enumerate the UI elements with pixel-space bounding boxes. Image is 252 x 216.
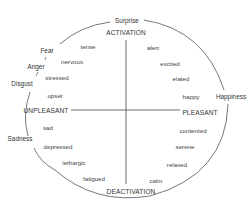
emotion-sadness: Sadness	[8, 135, 33, 142]
axis-label-pleasant: PLEASANT	[182, 109, 217, 116]
affect-elated: elated	[173, 75, 190, 82]
arc-left-upper	[25, 92, 30, 136]
affect-depressed: depressed	[44, 143, 73, 150]
affect-nervous: nervous	[61, 58, 83, 65]
emotion-happiness: Happiness	[216, 93, 246, 100]
affect-lethargic: lethargic	[62, 159, 85, 166]
emotion-surprise: Surprise	[115, 17, 139, 24]
affect-happy: happy	[183, 93, 200, 100]
emotion-anger: Anger	[27, 63, 44, 70]
affect-alert: alert	[147, 44, 159, 51]
axis-label-unpleasant: UNPLEASANT	[24, 107, 69, 114]
axis-label-activation: ACTIVATION	[106, 29, 146, 36]
tick-anger-disgust	[36, 72, 38, 76]
affect-serene: serene	[176, 143, 195, 150]
axis-label-deactivation: DEACTIVATION	[107, 188, 156, 195]
affect-relaxed: relaxed	[167, 161, 187, 168]
tick-fear-anger	[45, 57, 46, 60]
emotion-disgust: Disgust	[11, 80, 32, 87]
emotion-fear: Fear	[40, 47, 53, 54]
arc-top-left	[60, 22, 110, 44]
affect-stressed: stressed	[45, 74, 68, 81]
affect-excited: excited	[160, 60, 180, 67]
affect-contented: contented	[179, 127, 206, 134]
arc-left-lower	[34, 148, 55, 170]
affect-calm: calm	[149, 177, 162, 184]
affect-sad: sad	[43, 124, 53, 131]
affect-fatigued: fatigued	[83, 175, 105, 182]
affect-upset: upset	[47, 92, 62, 99]
affect-tense: tense	[80, 43, 95, 50]
